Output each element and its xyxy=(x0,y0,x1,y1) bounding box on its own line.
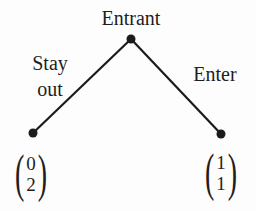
payoff-stay-out-incumbent: 2 xyxy=(26,174,36,195)
payoff-values-stay-out: 0 2 xyxy=(24,153,38,195)
payoff-enter-incumbent: 1 xyxy=(216,173,226,194)
open-paren: ( xyxy=(15,148,24,200)
branch-label-enter: Enter xyxy=(193,62,236,86)
payoff-vector-enter: ( 1 1 ) xyxy=(205,152,237,194)
close-paren: ) xyxy=(228,147,237,199)
node-leaf-stay-out xyxy=(29,129,38,138)
node-root xyxy=(127,35,136,44)
game-tree-diagram: Entrant Stay out Enter ( 0 2 ) ( 1 1 ) xyxy=(0,0,256,211)
root-node-label: Entrant xyxy=(102,7,161,29)
branch-line-enter xyxy=(131,39,221,134)
payoff-values-enter: 1 1 xyxy=(214,152,228,194)
open-paren: ( xyxy=(205,147,214,199)
close-paren: ) xyxy=(38,148,47,200)
node-leaf-enter xyxy=(217,130,226,139)
branch-label-stay-out-line2: out xyxy=(32,76,68,102)
branch-label-stay-out: Stay out xyxy=(32,50,68,102)
payoff-stay-out-entrant: 0 xyxy=(26,153,36,174)
branch-label-stay-out-line1: Stay xyxy=(32,50,68,76)
payoff-vector-stay-out: ( 0 2 ) xyxy=(15,153,47,195)
payoff-enter-entrant: 1 xyxy=(216,152,226,173)
